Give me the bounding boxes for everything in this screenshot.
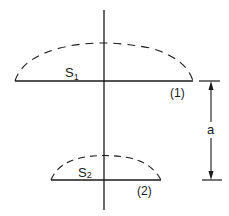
surface-2: S2 (2) — [51, 156, 161, 199]
arrow-down-icon — [209, 171, 214, 180]
surface-1-symbol: S1 — [65, 65, 79, 82]
surface-1-tag: (1) — [170, 86, 185, 100]
diagram-canvas: S1 (1) S2 (2) a — [0, 0, 229, 216]
dimension-a: a — [199, 81, 222, 180]
arrow-up-icon — [209, 81, 214, 90]
surface-2-symbol: S2 — [78, 165, 92, 180]
surface-2-dashed-arc — [51, 156, 161, 181]
surface-2-tag: (2) — [137, 184, 152, 198]
dimension-label: a — [207, 122, 215, 137]
